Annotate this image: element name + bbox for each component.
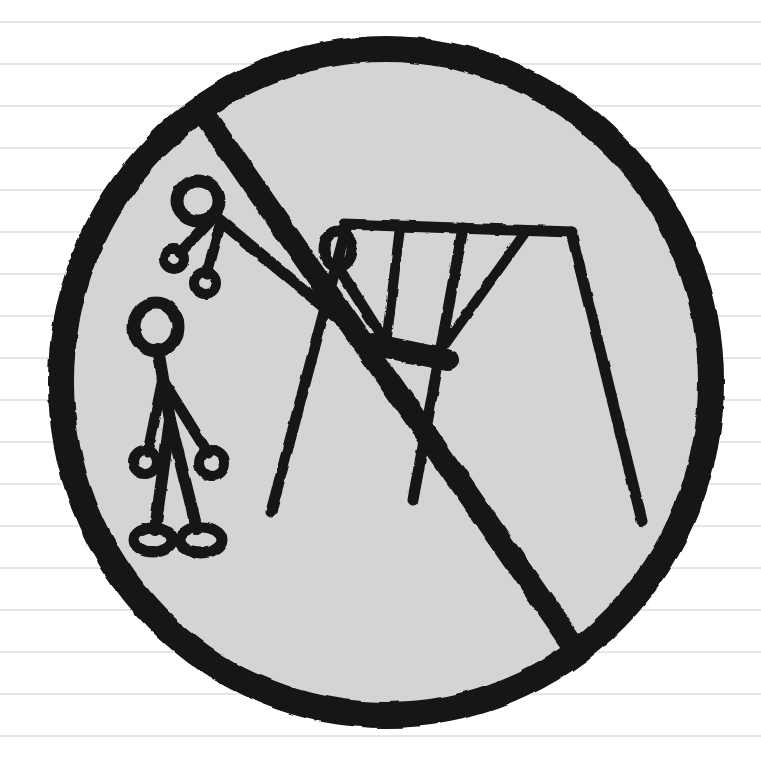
drawing-canvas: No Swings / Swing Set Prohibited A hand-… <box>0 0 761 764</box>
ruled-notebook-paper <box>0 0 761 764</box>
paper-background <box>0 0 761 764</box>
